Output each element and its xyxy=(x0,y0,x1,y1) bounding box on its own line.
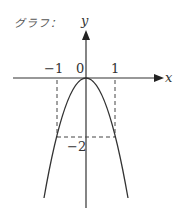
x-axis-arrow-icon xyxy=(154,74,164,82)
tick-x-pos1: 1 xyxy=(111,62,119,75)
origin-label: 0 xyxy=(76,62,84,75)
x-axis-label: x xyxy=(165,71,172,84)
tick-x-neg1: −1 xyxy=(44,62,63,75)
parabola-graph xyxy=(0,0,175,208)
tick-y-neg2: −2 xyxy=(67,140,86,153)
y-axis-label: y xyxy=(81,14,88,27)
y-axis-arrow-icon xyxy=(82,30,90,40)
